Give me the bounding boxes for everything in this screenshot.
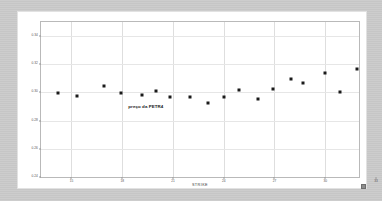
x-axis-title: STRIKE — [192, 183, 208, 187]
chart-panel: VOLATILIDADE IMPLÍCITA STRIKE preço da P… — [18, 12, 366, 188]
price-annotation: preço da PETR4 — [128, 103, 163, 108]
data-point[interactable] — [256, 97, 259, 100]
plot-area: preço da PETR4 — [41, 22, 359, 177]
y-tick-mark — [39, 36, 41, 37]
y-tick-mark — [39, 120, 41, 121]
gridline-horizontal — [41, 92, 359, 93]
data-point[interactable] — [290, 78, 293, 81]
y-tick-label: 0.30 — [31, 91, 38, 94]
x-tick-label: 30 — [323, 180, 327, 183]
y-tick-label: 0.24 — [31, 175, 38, 178]
gridline-vertical — [325, 22, 326, 177]
data-point[interactable] — [75, 94, 78, 97]
data-point[interactable] — [324, 71, 327, 74]
data-point[interactable] — [188, 96, 191, 99]
data-point[interactable] — [356, 68, 359, 71]
gridline-vertical — [274, 22, 275, 177]
x-tick-label: 24 — [222, 180, 226, 183]
gridline-vertical — [122, 22, 123, 177]
data-point[interactable] — [237, 88, 240, 91]
data-point[interactable] — [168, 96, 171, 99]
x-tick-label: 33 — [374, 180, 378, 183]
selection-handle[interactable] — [361, 184, 366, 189]
data-point[interactable] — [141, 93, 144, 96]
y-tick-label: 0.34 — [31, 34, 38, 37]
data-point[interactable] — [56, 92, 59, 95]
y-tick-label: 0.32 — [31, 63, 38, 66]
app-root: VOLATILIDADE IMPLÍCITA STRIKE preço da P… — [0, 0, 382, 201]
gridline-vertical — [224, 22, 225, 177]
x-tick-label: 21 — [171, 180, 175, 183]
data-point[interactable] — [339, 91, 342, 94]
x-tick-label: 18 — [120, 180, 124, 183]
data-point[interactable] — [302, 81, 305, 84]
data-point[interactable] — [207, 102, 210, 105]
y-tick-mark — [39, 148, 41, 149]
gridline-vertical — [71, 22, 72, 177]
y-tick-mark — [39, 64, 41, 65]
gridline-horizontal — [41, 121, 359, 122]
x-tick-label: 15 — [70, 180, 74, 183]
gridline-horizontal — [41, 64, 359, 65]
y-tick-mark — [39, 177, 41, 178]
data-point[interactable] — [155, 90, 158, 93]
y-tick-label: 0.26 — [31, 147, 38, 150]
plot-frame[interactable]: preço da PETR4 151821242730330.240.260.2… — [40, 21, 360, 178]
data-point[interactable] — [222, 95, 225, 98]
y-tick-label: 0.28 — [31, 119, 38, 122]
gridline-vertical — [173, 22, 174, 177]
gridline-horizontal — [41, 149, 359, 150]
y-tick-mark — [39, 92, 41, 93]
data-point[interactable] — [271, 87, 274, 90]
data-point[interactable] — [119, 92, 122, 95]
x-tick-label: 27 — [273, 180, 277, 183]
data-point[interactable] — [102, 85, 105, 88]
gridline-horizontal — [41, 36, 359, 37]
